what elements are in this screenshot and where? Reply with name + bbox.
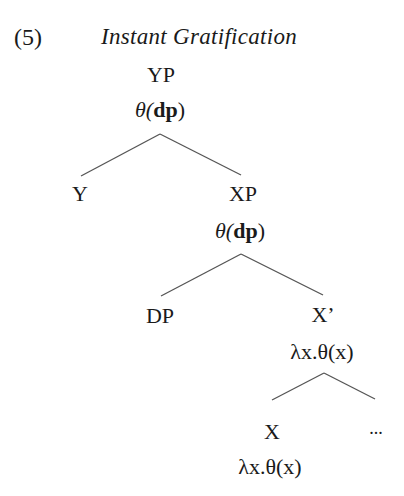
edge-xp-dp <box>161 254 241 296</box>
node-xp-sem-pre: θ( <box>215 218 233 243</box>
node-xp-label: XP <box>229 183 257 205</box>
node-yp-sem-pre: θ( <box>135 97 153 122</box>
edge-xbar-complement <box>324 373 375 399</box>
node-xp-semantics: θ(dp) <box>215 220 265 242</box>
node-x-semantics: λx.θ(x) <box>238 456 301 478</box>
node-y-label: Y <box>72 183 88 205</box>
edge-yp-xp <box>160 134 241 175</box>
node-complement-ellipsis: ... <box>369 419 383 437</box>
node-yp-sem-bold: dp <box>153 97 177 122</box>
node-yp-label: YP <box>147 64 175 86</box>
edge-xbar-x <box>272 373 324 400</box>
edge-yp-y <box>81 134 160 176</box>
node-yp-sem-post: ) <box>178 97 185 122</box>
edge-xp-xbar <box>241 254 323 295</box>
node-xbar-semantics: λx.θ(x) <box>290 341 353 363</box>
node-x-label: X <box>264 421 280 443</box>
node-dp-label: DP <box>146 305 174 327</box>
node-xbar-label: X’ <box>311 304 334 326</box>
node-yp-semantics: θ(dp) <box>135 99 185 121</box>
node-xp-sem-bold: dp <box>233 218 257 243</box>
tree-edges <box>0 0 404 496</box>
node-xp-sem-post: ) <box>258 218 265 243</box>
